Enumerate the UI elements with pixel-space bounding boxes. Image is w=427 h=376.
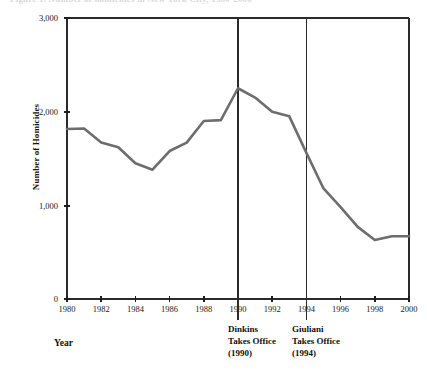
annotation-giuliani-line1: Giuliani [292, 324, 340, 336]
annotation-dinkins-line2: Takes Office [228, 336, 276, 348]
x-tick-label-1980: 1980 [59, 304, 76, 314]
figure-root: Figure 1. Number of homicides in New Yor… [0, 0, 427, 376]
x-tick-label-1988: 1988 [195, 304, 212, 314]
x-tick-label-2000: 2000 [401, 304, 418, 314]
annotation-giuliani-line2: Takes Office [292, 336, 340, 348]
y-axis-title: Number of Homicides [31, 77, 41, 217]
x-tick-label-1982: 1982 [93, 304, 110, 314]
annotation-giuliani-line3: (1994) [292, 348, 340, 360]
x-tick-label-1992: 1992 [264, 304, 281, 314]
y-tick-label-3000: 3,000 [39, 13, 58, 23]
annotation-dinkins-line1: Dinkins [228, 324, 276, 336]
y-tick-label-0: 0 [54, 294, 58, 304]
annotation-giuliani: Giuliani Takes Office (1994) [292, 324, 340, 359]
x-tick-label-1998: 1998 [366, 304, 383, 314]
y-tick-label-2000: 2,000 [39, 107, 58, 117]
x-axis-title: Year [54, 338, 73, 348]
annotation-dinkins-line3: (1990) [228, 348, 276, 360]
x-tick-label-1996: 1996 [332, 304, 349, 314]
x-tick-label-1986: 1986 [161, 304, 178, 314]
y-tick-labels: 3,000 2,000 1,000 0 [39, 13, 58, 304]
y-tick-label-1000: 1,000 [39, 201, 58, 211]
x-tick-label-1984: 1984 [127, 304, 145, 314]
annotation-dinkins: Dinkins Takes Office (1990) [228, 324, 276, 359]
homicides-line-chart: 3,000 2,000 1,000 0 1980 1982 1984 1986 … [0, 0, 427, 376]
